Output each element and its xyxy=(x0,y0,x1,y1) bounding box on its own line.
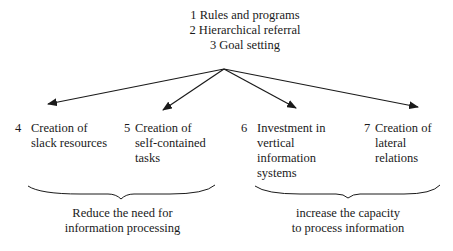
branch-line: tasks xyxy=(135,151,160,166)
branch-line: vertical xyxy=(257,136,294,151)
strategy-hierarchical-referral: 2 Hierarchical referral xyxy=(170,23,320,38)
branch-line: information xyxy=(257,151,316,166)
group-line: to process information xyxy=(268,221,428,236)
arrow-to-vertical-info-systems xyxy=(224,69,296,108)
branch-line: systems xyxy=(257,166,297,181)
branch-line: Creation of xyxy=(375,121,432,136)
strategy-rules-programs: 1 Rules and programs xyxy=(170,8,320,23)
branch-line: self-contained xyxy=(135,136,206,151)
strategy-goal-setting: 3 Goal setting xyxy=(170,38,320,53)
branch-line: lateral xyxy=(375,136,406,151)
group-line: increase the capacity xyxy=(268,206,428,221)
branch-number: 7 xyxy=(364,121,370,136)
branch-number: 5 xyxy=(124,121,130,136)
branch-line: relations xyxy=(375,151,418,166)
branch-number: 6 xyxy=(241,121,247,136)
branch-number: 4 xyxy=(15,121,21,136)
group-line: information processing xyxy=(40,221,205,236)
branch-line: Creation of xyxy=(135,121,192,136)
left-brace xyxy=(28,185,215,199)
branch-line: Creation of xyxy=(31,121,88,136)
arrow-to-lateral-relations xyxy=(224,69,418,107)
top-strategies: 1 Rules and programs 2 Hierarchical refe… xyxy=(170,8,320,53)
right-brace xyxy=(255,185,440,198)
group-line: Reduce the need for xyxy=(40,206,205,221)
group-reduce-need: Reduce the need for information processi… xyxy=(40,206,205,236)
branch-line: slack resources xyxy=(31,136,107,151)
group-increase-capacity: increase the capacity to process informa… xyxy=(268,206,428,236)
branch-line: Investment in xyxy=(257,121,325,136)
